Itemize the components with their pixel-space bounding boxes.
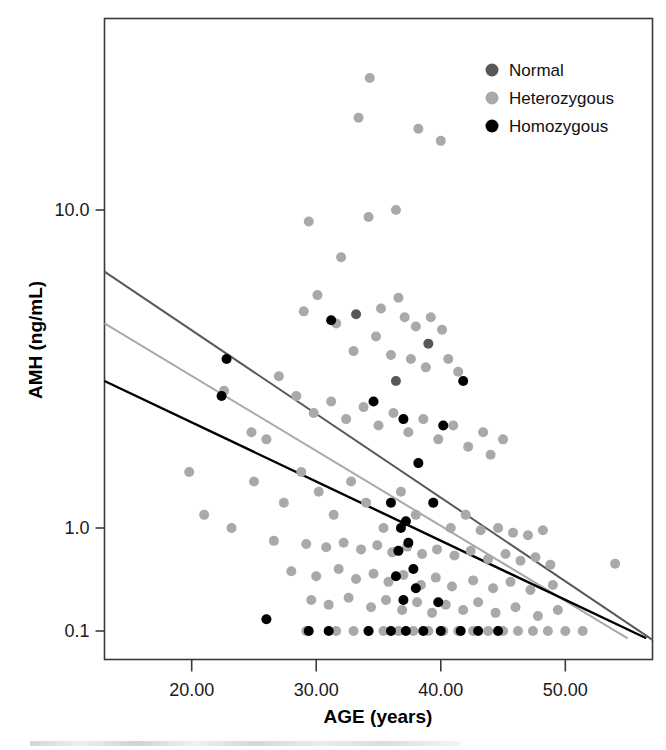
data-point [501, 549, 511, 559]
data-point [381, 595, 391, 605]
data-point [610, 559, 620, 569]
data-point [412, 597, 422, 607]
data-point [523, 530, 533, 540]
data-point [391, 376, 401, 386]
data-point [456, 626, 466, 636]
x-tick-label: 30.00 [294, 680, 339, 700]
data-point [304, 217, 314, 227]
scatter-plot: 10.01.00.1 20.0030.0040.0050.00 AMH (ng/… [0, 0, 666, 750]
data-point [406, 354, 416, 364]
data-point [438, 421, 448, 431]
data-point [530, 552, 540, 562]
data-point [408, 564, 418, 574]
data-point [473, 626, 483, 636]
caption-smudge [30, 741, 460, 746]
data-point [326, 315, 336, 325]
data-point [468, 575, 478, 585]
data-point [411, 583, 421, 593]
data-point [346, 477, 356, 487]
data-point [369, 396, 379, 406]
data-point [339, 538, 349, 548]
legend-label-heterozygous: Heterozygous [509, 89, 614, 108]
data-point [341, 414, 351, 424]
data-point [351, 309, 361, 319]
data-point [365, 73, 375, 83]
data-point [403, 427, 413, 437]
data-point [421, 362, 431, 372]
data-point [398, 595, 408, 605]
data-point [184, 467, 194, 477]
data-point [311, 571, 321, 581]
data-point [306, 595, 316, 605]
data-point [312, 290, 322, 300]
figure-container: 10.01.00.1 20.0030.0040.0050.00 AMH (ng/… [0, 0, 666, 750]
data-point [418, 414, 428, 424]
data-point [372, 540, 382, 550]
data-point [473, 597, 483, 607]
data-point [511, 602, 521, 612]
data-point [246, 427, 256, 437]
data-point [483, 626, 493, 636]
data-point [506, 577, 516, 587]
data-point [349, 626, 359, 636]
data-point [401, 626, 411, 636]
data-point [359, 402, 369, 412]
data-point [374, 421, 384, 431]
data-point [515, 556, 525, 566]
data-point [423, 339, 433, 349]
data-point [309, 408, 319, 418]
data-point [498, 434, 508, 444]
plot-background [0, 0, 666, 750]
x-tick-label: 40.00 [418, 680, 463, 700]
data-point [453, 367, 463, 377]
data-point [371, 332, 381, 342]
data-point [578, 626, 588, 636]
data-point [486, 450, 496, 460]
data-point [397, 605, 407, 615]
data-point [222, 354, 232, 364]
data-point [436, 136, 446, 146]
data-point [291, 391, 301, 401]
y-tick-label: 10.0 [54, 200, 89, 220]
data-point [369, 569, 379, 579]
data-point [528, 626, 538, 636]
data-point [304, 626, 314, 636]
data-point [431, 573, 441, 583]
data-point [428, 498, 438, 508]
data-point [217, 391, 227, 401]
data-point [400, 312, 410, 322]
data-point [296, 467, 306, 477]
data-point [349, 346, 359, 356]
data-point [386, 350, 396, 360]
data-point [403, 538, 413, 548]
legend-marker-heterozygous [486, 92, 499, 105]
data-point [533, 611, 543, 621]
data-point [447, 582, 457, 592]
data-point [433, 434, 443, 444]
data-point [344, 593, 354, 603]
data-point [314, 487, 324, 497]
data-point [249, 477, 259, 487]
data-point [324, 626, 334, 636]
data-point [458, 376, 468, 386]
data-point [443, 354, 453, 364]
data-point [361, 498, 371, 508]
data-point [493, 523, 503, 533]
data-point [488, 583, 498, 593]
data-point [396, 523, 406, 533]
data-point [324, 600, 334, 610]
data-point [538, 525, 548, 535]
data-point [458, 605, 468, 615]
data-point [336, 252, 346, 262]
data-point [364, 626, 374, 636]
data-point [364, 212, 374, 222]
data-point [396, 487, 406, 497]
data-point [388, 408, 398, 418]
data-point [433, 597, 443, 607]
data-point [508, 528, 518, 538]
data-point [386, 498, 396, 508]
data-point [261, 434, 271, 444]
data-point [525, 585, 535, 595]
data-point [391, 571, 401, 581]
data-point [436, 626, 446, 636]
